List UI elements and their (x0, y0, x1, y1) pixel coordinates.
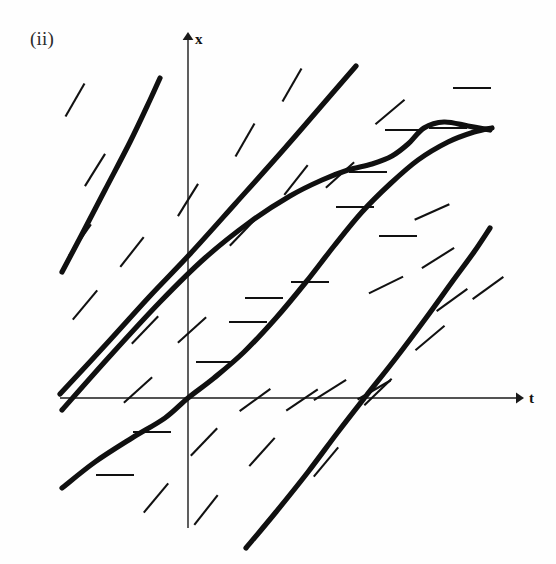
slope-mark (286, 389, 318, 410)
slope-mark (473, 277, 504, 299)
slope-mark (236, 124, 255, 157)
slope-mark (73, 290, 97, 319)
figure-container: (ii) x t (0, 0, 556, 564)
curve-1-far-left (62, 78, 160, 272)
slope-mark (178, 317, 206, 342)
slope-mark (422, 248, 454, 268)
slope-mark (66, 84, 85, 117)
slope-mark (144, 483, 168, 512)
curve-2-left-through-upper (60, 66, 356, 394)
slope-mark (191, 428, 217, 455)
slope-mark (415, 204, 450, 219)
slope-mark (283, 69, 302, 102)
x-axis-label: x (195, 31, 203, 47)
slope-mark (375, 100, 404, 124)
slope-mark (369, 277, 403, 294)
curve-5-lower-right (246, 228, 490, 548)
slope-mark (249, 438, 274, 466)
t-axis-label: t (529, 390, 534, 406)
slope-mark (314, 380, 346, 400)
slope-mark (120, 237, 143, 267)
panel-label: (ii) (30, 28, 54, 50)
slope-mark (124, 377, 152, 402)
x-axis-arrowhead (183, 32, 194, 40)
slope-mark (85, 154, 105, 186)
curve-4-through-origin (62, 128, 492, 488)
slope-mark (194, 495, 217, 525)
slope-mark (240, 389, 271, 411)
t-axis-arrowhead (516, 393, 524, 404)
direction-field-plot: x t (0, 0, 556, 564)
